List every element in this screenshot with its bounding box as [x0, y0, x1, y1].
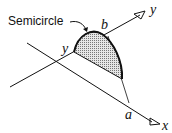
b-label: b: [101, 17, 108, 32]
label-pointer-icon: [70, 21, 86, 30]
diagram-canvas: Semicircle b y y a x: [0, 0, 172, 133]
semicircle-label: Semicircle: [8, 14, 64, 28]
y-axis-label: y: [148, 2, 157, 17]
x-axis-label: x: [161, 118, 169, 133]
y-point-label: y: [60, 41, 69, 56]
a-label: a: [125, 107, 132, 122]
diagram-svg: Semicircle b y y a x: [0, 0, 172, 133]
